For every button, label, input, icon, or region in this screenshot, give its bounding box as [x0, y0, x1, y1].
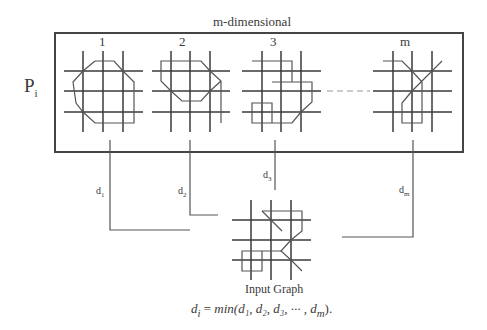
grid-panel-2	[152, 51, 230, 132]
input-graph-path-2	[262, 211, 282, 231]
grid-panel-3	[242, 51, 321, 132]
row-label-pi: Pi	[24, 76, 38, 99]
input-graph-label: Input Graph	[245, 283, 303, 295]
m-dimensional-title: m-dimensional	[213, 15, 291, 28]
panel-label-2: 2	[179, 35, 186, 48]
distance-label-d2: d2	[178, 186, 187, 199]
row-label-main: P	[24, 75, 35, 96]
distance-label-dm: dm	[399, 185, 409, 198]
m-dimensional-box	[55, 33, 463, 152]
row-label-sub: i	[35, 87, 38, 99]
diagram-canvas	[0, 0, 487, 330]
distance-connectors	[110, 140, 413, 237]
distance-label-d3: d3	[263, 170, 272, 183]
min-distance-formula: di = min(d₁, d₂, d₃, ··· , dm).	[191, 302, 332, 318]
input-graph-path-3	[242, 251, 281, 271]
distance-label-d1: d1	[96, 186, 105, 199]
panel-label-3: 3	[270, 35, 277, 48]
grid-panel-1	[64, 51, 143, 132]
panel-label-1: 1	[99, 35, 106, 48]
panel-label-m: m	[400, 35, 410, 48]
